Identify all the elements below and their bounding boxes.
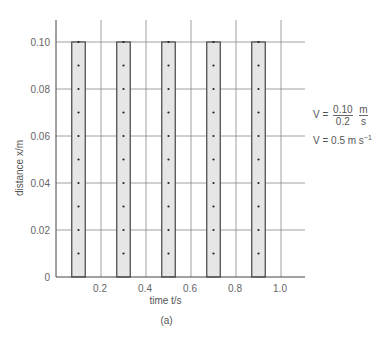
position-dot — [167, 64, 169, 66]
position-dot — [122, 135, 124, 137]
position-dot — [77, 205, 79, 207]
fraction-numerator: 0.10 — [333, 104, 352, 116]
velocity-prefix: V = — [313, 109, 328, 120]
position-dot — [77, 135, 79, 137]
position-dot — [212, 158, 214, 160]
y-tick-label: 0.10 — [31, 37, 51, 48]
position-dot — [257, 41, 259, 43]
position-dot — [122, 88, 124, 90]
unit-denominator: s — [359, 116, 367, 127]
position-dot — [212, 64, 214, 66]
position-dot — [212, 229, 214, 231]
fraction-denominator: 0.2 — [333, 116, 352, 127]
figure-caption: (a) — [160, 315, 172, 326]
position-dot — [257, 64, 259, 66]
y-tick-label: 0.06 — [31, 131, 51, 142]
position-dot — [77, 158, 79, 160]
position-dot — [77, 229, 79, 231]
position-dot — [167, 88, 169, 90]
position-dot — [257, 88, 259, 90]
velocity-result-exponent: −1 — [364, 134, 372, 141]
position-dot — [257, 252, 259, 254]
velocity-formula: V = 0.10 0.2 m s — [313, 104, 370, 127]
x-tick-label: 0.4 — [138, 283, 152, 294]
position-dot — [257, 205, 259, 207]
position-dot — [122, 229, 124, 231]
y-axis-label: distance x/m — [14, 140, 25, 196]
position-dot — [212, 182, 214, 184]
y-tick-label: 0.02 — [31, 225, 51, 236]
position-dot — [212, 41, 214, 43]
position-dot — [122, 205, 124, 207]
position-dot — [212, 205, 214, 207]
position-dot — [122, 158, 124, 160]
position-dot — [77, 111, 79, 113]
x-axis-label: time t/s — [149, 295, 181, 306]
position-dot — [77, 41, 79, 43]
x-tick-label: 0.6 — [183, 283, 197, 294]
position-dot — [167, 41, 169, 43]
position-dot — [77, 88, 79, 90]
unit-numerator: m — [359, 104, 367, 116]
position-dot — [167, 111, 169, 113]
x-tick-label: 0.8 — [228, 283, 242, 294]
unit-fraction: m s — [359, 104, 367, 127]
y-tick-label: 0.04 — [31, 178, 51, 189]
position-dot — [167, 229, 169, 231]
position-dot — [257, 135, 259, 137]
position-dot — [77, 182, 79, 184]
position-dot — [122, 41, 124, 43]
y-tick-label: 0 — [44, 272, 50, 283]
position-dot — [167, 158, 169, 160]
velocity-result-text: V = 0.5 m s — [313, 135, 364, 146]
position-dot — [167, 252, 169, 254]
y-tick-label: 0.08 — [31, 84, 51, 95]
position-dot — [167, 205, 169, 207]
position-dot — [122, 64, 124, 66]
position-dot — [212, 252, 214, 254]
velocity-fraction: 0.10 0.2 — [333, 104, 352, 127]
position-dot — [122, 111, 124, 113]
velocity-result: V = 0.5 m s−1 — [313, 134, 372, 146]
position-dot — [77, 64, 79, 66]
position-dot — [167, 135, 169, 137]
position-dot — [77, 252, 79, 254]
position-dot — [212, 135, 214, 137]
position-dot — [167, 182, 169, 184]
chart-plot: 00.020.040.060.080.100.20.40.60.81.0time… — [0, 0, 390, 343]
position-dot — [257, 111, 259, 113]
position-dot — [212, 111, 214, 113]
position-dot — [212, 88, 214, 90]
position-dot — [122, 252, 124, 254]
x-tick-label: 1.0 — [273, 283, 287, 294]
position-dot — [257, 158, 259, 160]
position-dot — [122, 182, 124, 184]
position-dot — [257, 182, 259, 184]
x-tick-label: 0.2 — [93, 283, 107, 294]
position-dot — [257, 229, 259, 231]
